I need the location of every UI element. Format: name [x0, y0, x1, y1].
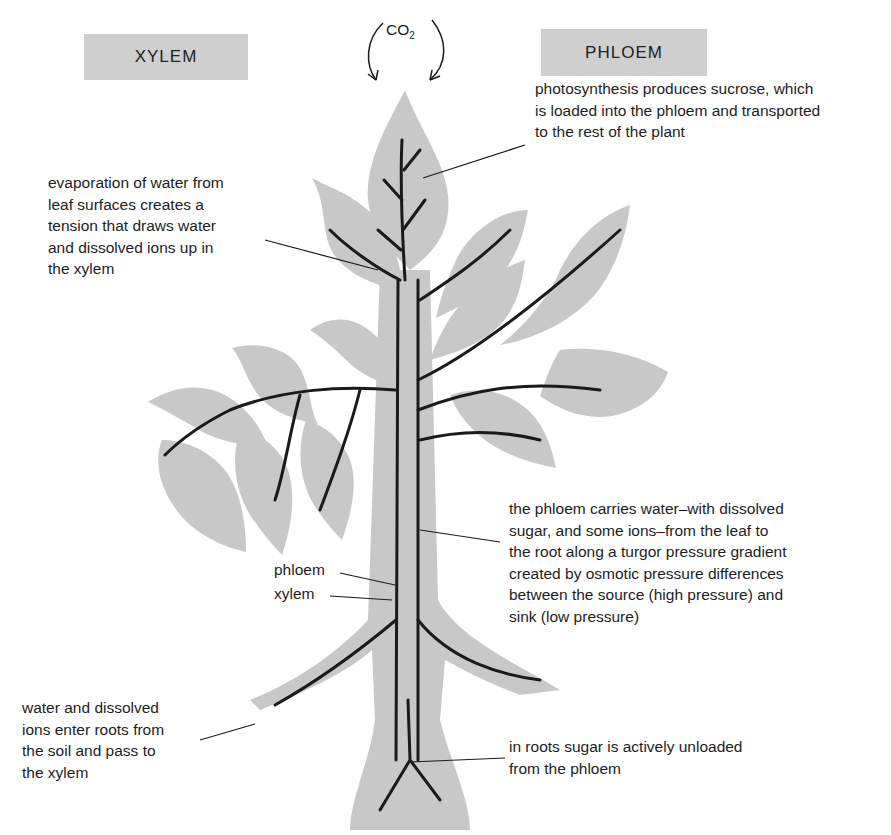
xylem-header: XYLEM: [84, 34, 248, 80]
photosynthesis-annotation: photosynthesis produces sucrose, which i…: [535, 78, 891, 143]
phloem-header-label: PHLOEM: [585, 43, 663, 63]
roots-entry-annotation: water and dissolved ions enter roots fro…: [22, 697, 222, 783]
phloem-header: PHLOEM: [541, 29, 707, 76]
phloem-label: phloem: [274, 561, 325, 579]
evaporation-annotation: evaporation of water from leaf surfaces …: [48, 172, 288, 280]
co2-subscript: 2: [409, 30, 415, 41]
phloem-transport-annotation: the phloem carries water–with dissolved …: [509, 498, 889, 627]
roots-unload-annotation: in roots sugar is actively unloaded from…: [509, 736, 869, 779]
co2-base: CO: [386, 21, 409, 38]
co2-label: CO2: [386, 21, 415, 41]
xylem-label: xylem: [274, 585, 314, 603]
xylem-header-label: XYLEM: [135, 47, 198, 67]
